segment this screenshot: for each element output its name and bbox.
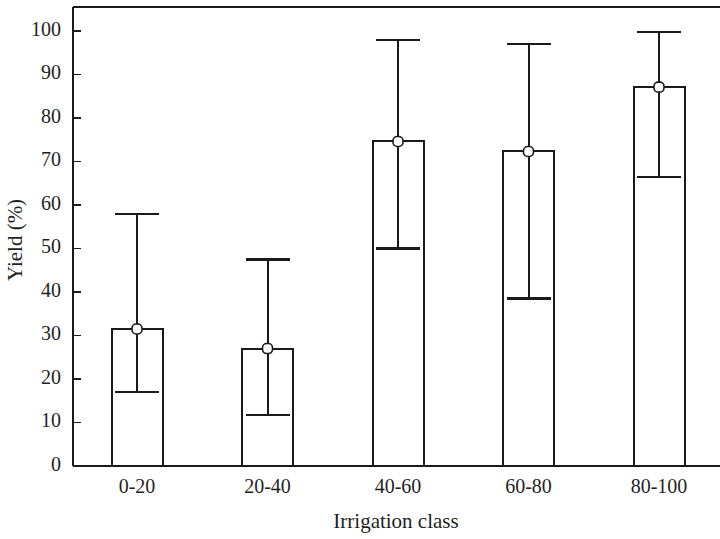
- y-tick-label: 40: [41, 279, 61, 301]
- y-tick-label: 90: [41, 61, 61, 83]
- x-axis-tick-labels: 0-2020-4040-6060-8080-100: [119, 475, 688, 497]
- y-tick-label: 70: [41, 148, 61, 170]
- bar-chart-with-error-bars: 0102030405060708090100 0-2020-4040-6060-…: [0, 0, 720, 539]
- y-axis-tick-labels: 0102030405060708090100: [31, 18, 61, 475]
- y-tick-label: 80: [41, 105, 61, 127]
- y-tick-label: 50: [41, 235, 61, 257]
- x-tick-label: 0-20: [119, 475, 156, 497]
- y-tick-label: 0: [51, 453, 61, 475]
- y-axis-ticks: [73, 31, 81, 466]
- chart-figure: 0102030405060708090100 0-2020-4040-6060-…: [0, 0, 720, 539]
- mean-marker: [524, 146, 534, 156]
- mean-marker: [132, 324, 142, 334]
- y-tick-label: 20: [41, 366, 61, 388]
- x-tick-label: 80-100: [631, 475, 688, 497]
- y-tick-label: 10: [41, 409, 61, 431]
- mean-marker: [263, 344, 273, 354]
- x-axis-title: Irrigation class: [333, 509, 458, 533]
- mean-marker: [393, 136, 403, 146]
- x-tick-label: 60-80: [505, 475, 552, 497]
- y-tick-label: 60: [41, 192, 61, 214]
- mean-marker: [654, 82, 664, 92]
- x-tick-label: 40-60: [375, 475, 422, 497]
- x-tick-label: 20-40: [244, 475, 291, 497]
- y-axis-title: Yield (%): [3, 199, 27, 281]
- y-tick-label: 30: [41, 322, 61, 344]
- y-tick-label: 100: [31, 18, 61, 40]
